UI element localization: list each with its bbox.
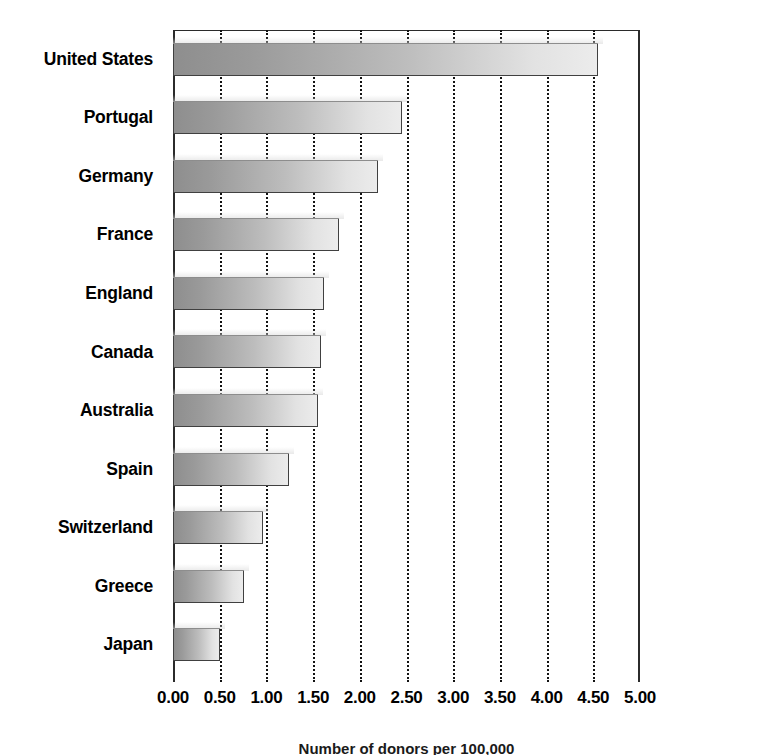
- bar-united-states: [173, 43, 598, 76]
- axis-caption: Number of donors per 100,000: [173, 740, 640, 755]
- x-tick-label: 0.00: [157, 688, 189, 708]
- bar-row: [173, 615, 640, 674]
- bar-germany: [173, 160, 378, 193]
- bar-row: [173, 206, 640, 265]
- category-label-france: France: [0, 206, 163, 265]
- bar-switzerland: [173, 511, 263, 544]
- bar-row: [173, 30, 640, 89]
- x-tick-label: 3.00: [437, 688, 469, 708]
- x-tick-label: 2.50: [391, 688, 423, 708]
- bar-row: [173, 147, 640, 206]
- bar-row: [173, 381, 640, 440]
- category-label-germany: Germany: [0, 147, 163, 206]
- bar-france: [173, 218, 339, 251]
- bar-row: [173, 498, 640, 557]
- category-label-united-states: United States: [0, 30, 163, 89]
- x-tick-label: 4.00: [531, 688, 563, 708]
- bar-row: [173, 440, 640, 499]
- category-label-spain: Spain: [0, 440, 163, 499]
- x-tick-label: 5.00: [624, 688, 656, 708]
- x-tick-label: 1.00: [250, 688, 282, 708]
- x-tick-label: 2.00: [344, 688, 376, 708]
- bar-row: [173, 323, 640, 382]
- category-label-canada: Canada: [0, 323, 163, 382]
- category-label-greece: Greece: [0, 557, 163, 616]
- category-label-england: England: [0, 264, 163, 323]
- x-tick-label: 0.50: [204, 688, 236, 708]
- bar-canada: [173, 335, 321, 368]
- category-axis: United States Portugal Germany France En…: [0, 30, 163, 674]
- category-label-switzerland: Switzerland: [0, 498, 163, 557]
- bars-layer: [173, 30, 640, 674]
- x-tick-label: 3.50: [484, 688, 516, 708]
- bar-japan: [173, 628, 220, 661]
- x-tick-label: 1.50: [297, 688, 329, 708]
- category-label-portugal: Portugal: [0, 89, 163, 148]
- category-label-japan: Japan: [0, 615, 163, 674]
- bar-row: [173, 557, 640, 616]
- bar-greece: [173, 570, 244, 603]
- bar-australia: [173, 394, 318, 427]
- bar-spain: [173, 453, 289, 486]
- bar-england: [173, 277, 324, 310]
- value-axis-labels: 0.000.501.001.502.002.503.003.504.004.50…: [173, 688, 640, 714]
- x-tick-label: 4.50: [577, 688, 609, 708]
- bar-row: [173, 89, 640, 148]
- bar-chart: United States Portugal Germany France En…: [0, 0, 781, 755]
- bar-row: [173, 264, 640, 323]
- category-label-australia: Australia: [0, 381, 163, 440]
- bar-portugal: [173, 101, 402, 134]
